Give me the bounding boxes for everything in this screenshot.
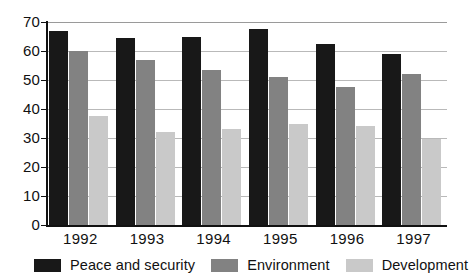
bar-group-1994 [182,22,241,225]
y-axis-label: 50 [2,72,40,87]
bar-1995-series-3 [289,124,308,226]
bar-1993-series-3 [156,132,175,225]
y-axis-label: 30 [2,130,40,145]
y-tick-40 [41,109,47,110]
y-tick-20 [41,167,47,168]
bar-1994-series-3 [222,129,241,225]
legend-item-label: Development [382,258,469,273]
bar-1992-series-1 [49,31,68,225]
bar-group-1996 [316,22,375,225]
y-tick-60 [41,51,47,52]
y-tick-70 [41,22,47,23]
bar-1993-series-2 [136,60,155,225]
bar-group-1995 [249,22,308,225]
y-axis-tick-labels: 706050403020100 [0,0,40,279]
x-axis-label-1994: 1994 [179,229,249,249]
bar-1995-series-2 [269,77,288,225]
bar-1995-series-1 [249,29,268,225]
legend-swatch-icon [211,259,238,272]
bar-group-1993 [116,22,175,225]
bar-1997-series-2 [402,74,421,225]
bar-1992-series-2 [69,51,88,225]
legend-item-3[interactable]: Development [346,258,469,273]
bar-1994-series-1 [182,37,201,226]
legend-swatch-icon [346,259,373,272]
bar-1996-series-2 [336,87,355,225]
x-axis-label-1992: 1992 [45,229,115,249]
bar-1996-series-3 [356,126,375,225]
y-tick-0 [41,225,47,226]
x-axis-label-1995: 1995 [245,229,315,249]
legend-item-1[interactable]: Peace and security [34,258,195,273]
x-axis-label-1997: 1997 [379,229,449,249]
chart-legend: Peace and securityEnvironmentDevelopment [34,255,473,275]
bar-1992-series-3 [89,116,108,225]
bar-1997-series-1 [382,54,401,225]
y-axis-label: 10 [2,188,40,203]
bar-group-1997 [382,22,441,225]
bar-1996-series-1 [316,44,335,225]
y-tick-10 [41,196,47,197]
x-axis-tick-labels: 199219931994199519961997 [47,229,447,251]
y-tick-30 [41,138,47,139]
x-axis-label-1993: 1993 [112,229,182,249]
y-axis-label: 20 [2,159,40,174]
y-axis-label: 40 [2,101,40,116]
bar-1994-series-2 [202,70,221,225]
y-axis-label: 60 [2,43,40,58]
bar-group-1992 [49,22,108,225]
y-axis-label: 70 [2,14,40,29]
y-axis-label: 0 [2,217,40,232]
bar-1993-series-1 [116,38,135,225]
legend-item-label: Peace and security [70,258,195,273]
x-axis-line [46,225,447,227]
legend-swatch-icon [34,259,61,272]
bar-1997-series-3 [422,139,441,225]
x-axis-label-1996: 1996 [312,229,382,249]
plot-area [47,22,447,225]
legend-item-2[interactable]: Environment [211,258,330,273]
y-tick-50 [41,80,47,81]
legend-item-label: Environment [247,258,330,273]
